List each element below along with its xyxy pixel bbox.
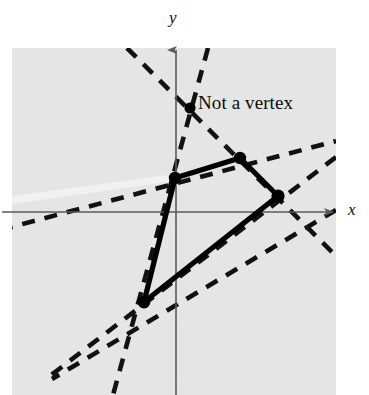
not-a-vertex-annotation-label: Not a vertex bbox=[198, 92, 293, 114]
not-a-vertex-point bbox=[184, 102, 195, 113]
top-vertex bbox=[234, 152, 246, 164]
bottom-vertex bbox=[138, 296, 151, 309]
x-axis-label: x bbox=[348, 200, 356, 220]
y-axis-label: y bbox=[169, 8, 177, 28]
left-vertex bbox=[169, 172, 181, 184]
right-vertex bbox=[271, 189, 284, 202]
figure-container: y x Not a vertex bbox=[0, 0, 369, 395]
diagram-canvas bbox=[0, 0, 369, 395]
